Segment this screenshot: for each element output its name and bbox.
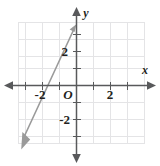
y-axis-label: y	[81, 6, 89, 20]
graph-canvas: -2 2 O 2 -2 x y	[0, 0, 160, 166]
y-tick-label-negative-two: -2	[59, 112, 70, 127]
x-axis-label: x	[141, 63, 148, 77]
x-tick-label-negative-two: -2	[35, 87, 46, 102]
coordinate-plane-graph: -2 2 O 2 -2 x y	[0, 0, 160, 166]
y-tick-label-positive-two: 2	[62, 44, 69, 59]
x-tick-label-positive-two: 2	[107, 87, 114, 102]
origin-label: O	[63, 87, 73, 102]
